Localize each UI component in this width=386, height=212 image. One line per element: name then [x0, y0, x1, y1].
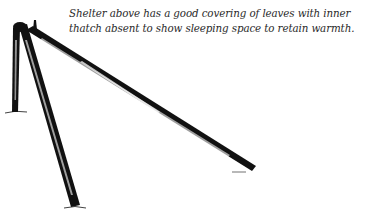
shelter-frame-illustration	[0, 0, 386, 212]
front-leaning-pole	[19, 24, 86, 208]
